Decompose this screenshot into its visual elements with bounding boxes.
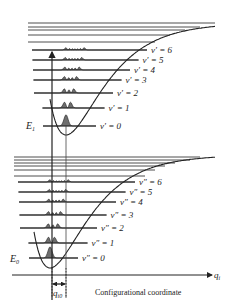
- upper-level-label: v′ = 0: [100, 121, 122, 131]
- axis-label: qi: [214, 270, 221, 281]
- upper-level-label: v′ = 1: [109, 103, 130, 113]
- lower-level-label: v″ = 4: [120, 197, 143, 207]
- displacement-label: qi0: [53, 288, 62, 299]
- lower-level-label: v″ = 2: [101, 223, 124, 233]
- upper-state-group: v′ = 0v′ = 1v′ = 2v′ = 3v′ = 4v′ = 5v′ =…: [28, 23, 215, 135]
- lower-wavefunction: [20, 224, 97, 228]
- upper-wavefunction: [34, 77, 122, 80]
- lower-energy-label: E0: [9, 253, 19, 265]
- lower-wavefunction: [29, 247, 78, 258]
- upper-level-label: v′ = 5: [143, 55, 165, 65]
- lower-level-label: v″ = 0: [82, 253, 105, 263]
- upper-wavefunction: [43, 115, 96, 126]
- axis-caption: Configurational coordinate: [95, 288, 182, 297]
- upper-level-label: v′ = 2: [117, 88, 139, 98]
- upper-wavefunction: [33, 67, 130, 70]
- lower-level-label: v″ = 1: [92, 238, 115, 248]
- upper-energy-label: E1: [25, 120, 35, 132]
- configurational-coordinate-diagram: v′ = 0v′ = 1v′ = 2v′ = 3v′ = 4v′ = 5v′ =…: [0, 0, 231, 304]
- upper-level-label: v′ = 3: [126, 75, 148, 85]
- lower-level-label: v″ = 6: [139, 177, 162, 187]
- lower-level-label: v″ = 3: [111, 210, 134, 220]
- upper-level-label: v′ = 4: [134, 65, 156, 75]
- lower-wavefunction: [29, 237, 88, 243]
- lower-level-label: v″ = 5: [130, 187, 153, 197]
- upper-level-label: v′ = 6: [151, 45, 173, 55]
- lower-state-group: v″ = 0v″ = 1v″ = 2v″ = 3v″ = 4v″ = 5v″ =…: [14, 157, 215, 268]
